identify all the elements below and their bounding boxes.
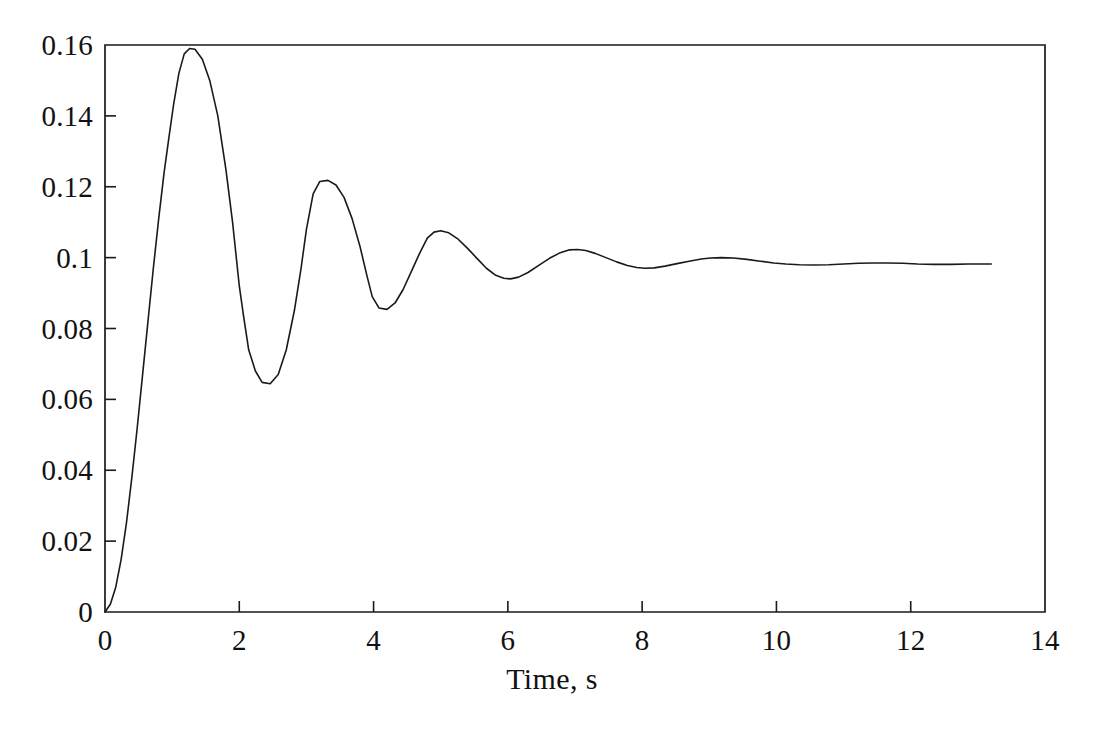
x-axis-title: Time, s [0, 662, 1104, 696]
y-tick-label: 0 [78, 598, 93, 627]
x-tick-label: 14 [1030, 626, 1059, 655]
y-tick-label: 0.06 [41, 385, 93, 414]
data-series-line [105, 49, 991, 612]
x-tick-label: 6 [500, 626, 515, 655]
x-tick-label: 2 [232, 626, 247, 655]
plot-svg [0, 0, 1104, 732]
y-tick-label: 0.02 [41, 527, 93, 556]
x-tick-label: 8 [635, 626, 650, 655]
y-tick-label: 0.08 [41, 314, 93, 343]
y-tick-label: 0.12 [41, 172, 93, 201]
y-tick-label: 0.1 [56, 243, 93, 272]
data-line-group [105, 49, 991, 612]
x-tick-label: 10 [762, 626, 791, 655]
tick-marks [105, 116, 911, 612]
y-tick-label: 0.14 [41, 101, 93, 130]
y-tick-label: 0.16 [41, 31, 93, 60]
y-tick-label: 0.04 [41, 456, 93, 485]
x-tick-label: 12 [896, 626, 925, 655]
figure-canvas: 00.020.040.060.080.10.120.140.1602468101… [0, 0, 1104, 732]
x-tick-label: 0 [98, 626, 113, 655]
x-tick-label: 4 [366, 626, 381, 655]
